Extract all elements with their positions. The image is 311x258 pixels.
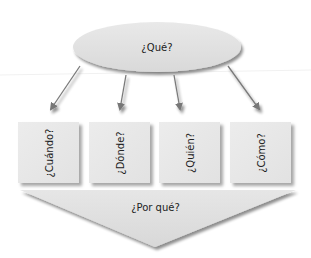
box-label-quien: ¿Quién? bbox=[184, 132, 195, 172]
diagram-canvas: ¿Qué? ¿Cuándo? ¿Dónde? ¿Quién? ¿Cómo? ¿P… bbox=[0, 0, 311, 258]
box-quien: ¿Quién? bbox=[159, 122, 220, 183]
bottom-triangle bbox=[20, 190, 296, 247]
bottom-label: ¿Por qué? bbox=[0, 202, 311, 213]
arrow-to-donde bbox=[120, 75, 126, 109]
box-label-cuando: ¿Cuándo? bbox=[43, 128, 54, 177]
box-label-como: ¿Cómo? bbox=[255, 133, 266, 173]
root-label: ¿Qué? bbox=[73, 22, 241, 72]
box-cuando: ¿Cuándo? bbox=[18, 122, 79, 183]
arrow-to-como bbox=[228, 66, 259, 109]
box-como: ¿Cómo? bbox=[230, 122, 291, 183]
box-donde: ¿Dónde? bbox=[89, 122, 150, 183]
box-label-donde: ¿Dónde? bbox=[114, 131, 125, 174]
arrow-to-quien bbox=[174, 75, 180, 109]
arrow-to-cuando bbox=[51, 66, 80, 109]
